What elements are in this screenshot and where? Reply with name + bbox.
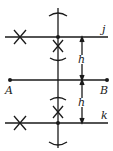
point-b-dot <box>105 78 109 82</box>
point-a-dot <box>8 78 12 82</box>
label-j: j <box>99 23 106 36</box>
label-b: B <box>99 84 108 97</box>
geometry-diagram: A B j k h h <box>0 0 113 151</box>
label-a: A <box>4 84 13 97</box>
intersection-j-dot <box>56 35 60 39</box>
label-h-upper: h <box>78 53 85 66</box>
label-k: k <box>101 109 108 122</box>
label-h-lower: h <box>78 96 85 109</box>
intersection-k-dot <box>56 121 60 125</box>
